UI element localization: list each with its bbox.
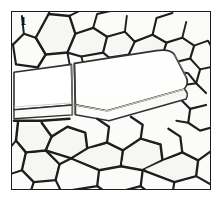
grain-overlay xyxy=(12,12,210,189)
micrograph-frame: 1 xyxy=(11,11,211,190)
figure-panel: 1 xyxy=(0,0,224,205)
panel-number-label: 1 xyxy=(20,14,27,28)
micrograph-image xyxy=(12,12,210,189)
